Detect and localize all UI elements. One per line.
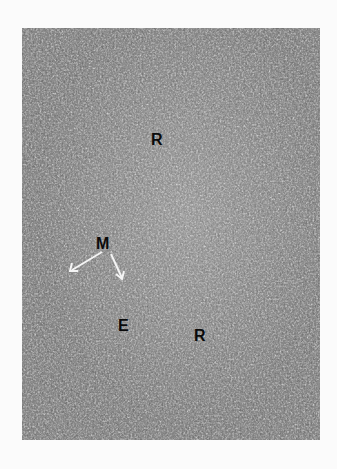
label-r-upper: R [151, 132, 163, 148]
tissue-texture [22, 28, 320, 440]
micrograph-image [22, 28, 320, 440]
arrow-icon-m-left [66, 250, 106, 275]
arrow-icon-m-right [108, 252, 128, 282]
label-r-lower: R [194, 328, 206, 344]
label-e: E [118, 318, 129, 334]
